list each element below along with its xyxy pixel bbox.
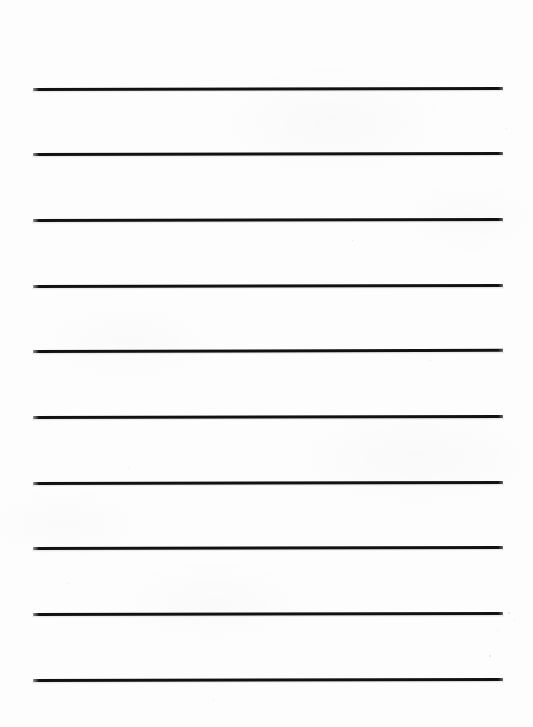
rule-line-shadow: [32, 89, 504, 92]
rule-line-left-end: [33, 612, 39, 615]
rule-line: [33, 612, 503, 616]
scan-speck: [213, 700, 214, 701]
scan-speck: [508, 612, 510, 614]
rule-line-left-end: [33, 152, 39, 155]
rule-line: [33, 678, 503, 682]
rule-line-right-end: [498, 545, 503, 548]
rule-line-shadow: [32, 681, 504, 684]
rule-line-right-end: [498, 152, 503, 155]
lined-paper-sheet: [0, 0, 533, 727]
rule-line-right-end: [498, 218, 503, 221]
rule-line-left-end: [33, 349, 39, 352]
scan-speck: [67, 583, 68, 584]
rule-line-left-end: [33, 87, 39, 90]
rule-line-shadow: [32, 418, 504, 421]
scan-speck: [506, 128, 507, 129]
rule-line-left-end: [33, 678, 39, 681]
rule-line: [33, 415, 503, 419]
rule-line-shadow: [32, 287, 504, 290]
rule-line: [33, 284, 503, 288]
rule-line: [33, 545, 503, 549]
rule-line-left-end: [33, 481, 39, 484]
scan-speck: [489, 655, 491, 657]
rule-line-left-end: [33, 218, 39, 221]
scan-speck: [430, 360, 431, 361]
rule-line-shadow: [32, 155, 504, 158]
rule-line-left-end: [33, 284, 39, 287]
scan-speck: [352, 240, 353, 241]
rule-line-right-end: [498, 284, 503, 287]
rule-line: [33, 152, 503, 156]
scan-speck: [128, 468, 129, 469]
rule-line-shadow: [32, 615, 504, 618]
rule-line-shadow: [32, 548, 504, 551]
rule-line-right-end: [498, 481, 503, 484]
rule-line-shadow: [32, 221, 504, 224]
rule-line-shadow: [32, 484, 504, 487]
rule-line-right-end: [498, 415, 503, 418]
rule-line: [33, 86, 503, 90]
scan-speck: [514, 620, 515, 621]
rule-line: [33, 348, 503, 352]
rule-line-left-end: [33, 415, 39, 418]
rule-line-left-end: [33, 546, 39, 549]
rule-line-right-end: [498, 348, 503, 351]
rule-line: [33, 218, 503, 222]
rule-line-right-end: [498, 678, 503, 681]
rule-line-right-end: [498, 86, 503, 89]
rule-line: [33, 481, 503, 485]
rule-line-right-end: [498, 612, 503, 615]
scan-speck: [497, 630, 498, 631]
